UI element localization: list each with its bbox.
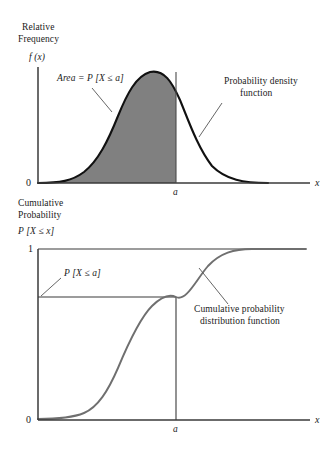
cdf-curve-annotation-line2: distribution function xyxy=(200,316,280,328)
pdf-plot-graphic xyxy=(0,0,331,200)
pdf-curve-annotation-line1: Probability density xyxy=(224,76,298,88)
cdf-probability-annotation: P [X ≤ a] xyxy=(64,268,101,280)
pdf-origin-label: 0 xyxy=(26,178,31,188)
cdf-curve-leader-line xyxy=(199,268,228,304)
cdf-plot-graphic xyxy=(0,196,331,454)
pdf-curve-annotation-line2: function xyxy=(240,88,272,100)
cdf-chart-panel: Cumulative Probability P [X ≤ x] P [X ≤ … xyxy=(0,196,331,454)
cdf-origin-label: 0 xyxy=(26,415,31,425)
cdf-x-axis-label: x xyxy=(315,415,319,425)
pdf-shaded-area xyxy=(38,72,176,183)
pdf-curve-leader-line xyxy=(199,103,222,137)
probability-distribution-figure: Relative Frequency f (x) Area = P [X ≤ a… xyxy=(0,0,331,454)
pdf-chart-panel: Relative Frequency f (x) Area = P [X ≤ a… xyxy=(0,0,331,200)
pdf-x-axis-label: x xyxy=(315,178,319,188)
pdf-area-leader-line xyxy=(92,88,112,112)
cdf-probability-leader-line xyxy=(41,278,61,296)
cdf-tick-a-label: a xyxy=(173,425,178,435)
pdf-area-annotation: Area = P [X ≤ a] xyxy=(57,73,124,85)
cdf-curve-annotation-line1: Cumulative probability xyxy=(194,304,285,316)
cdf-top-tick-label: 1 xyxy=(28,244,33,254)
